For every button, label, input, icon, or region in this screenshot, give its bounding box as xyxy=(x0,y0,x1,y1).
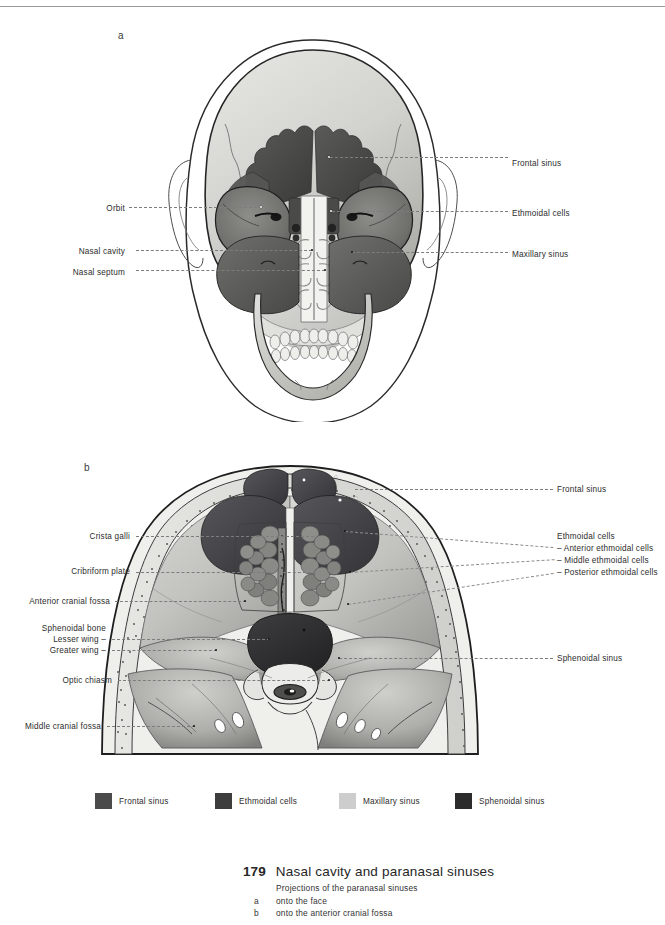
legend-swatch-sphenoidal-sinus xyxy=(455,793,472,809)
caption-key-a: a xyxy=(254,895,276,908)
figure-caption: 179 Nasal cavity and paranasal sinuses P… xyxy=(243,864,643,920)
label-a-ethmoidal-cells: Ethmoidal cells xyxy=(512,208,570,219)
leader-b-anterior-cranial-fossa xyxy=(115,601,246,602)
label-a-orbit: Orbit xyxy=(63,203,125,214)
leader-b-cribriform-plate xyxy=(136,572,316,573)
legend-label-frontal-sinus: Frontal sinus xyxy=(119,797,168,806)
label-b-anterior-cranial-fossa: Anterior cranial fossa xyxy=(0,596,110,607)
label-b-cribriform-plate: Cribriform plate xyxy=(10,566,130,577)
caption-subtitle: Projections of the paranasal sinuses xyxy=(276,882,643,895)
panel-letter-a: a xyxy=(118,30,124,41)
caption-text-a: onto the face xyxy=(276,895,327,908)
label-b-middle-cranial-fossa: Middle cranial fossa xyxy=(0,721,101,732)
caption-text-b: onto the anterior cranial fossa xyxy=(276,907,393,920)
caption-title-row: 179 Nasal cavity and paranasal sinuses xyxy=(243,864,643,879)
caption-key-b: b xyxy=(254,907,276,920)
label-b-sphenoidal-sinus: Sphenoidal sinus xyxy=(557,653,622,664)
figure-b-illustration xyxy=(92,462,488,758)
caption-item-b: b onto the anterior cranial fossa xyxy=(243,907,643,920)
label-b-sphenoidal-bone: Sphenoidal bone xyxy=(0,623,106,634)
leader-a-ethmoidal-cells xyxy=(332,211,508,212)
leader-b-greater-wing xyxy=(112,650,217,651)
leader-b-crista-galli xyxy=(136,536,314,537)
figure-a-illustration xyxy=(143,32,483,422)
label-b-optic-chiasm: Optic chiasm xyxy=(10,675,112,686)
label-a-maxillary-sinus: Maxillary sinus xyxy=(512,249,568,260)
legend-item-sphenoidal-sinus: Sphenoidal sinus xyxy=(455,790,545,812)
caption-title: Nasal cavity and paranasal sinuses xyxy=(276,864,494,879)
legend: Frontal sinus Ethmoidal cells Maxillary … xyxy=(0,790,665,814)
label-b-ethmoidal-cells: Ethmoidal cells xyxy=(557,531,615,542)
label-b-crista-galli: Crista galli xyxy=(10,531,130,542)
legend-item-frontal-sinus: Frontal sinus xyxy=(95,790,168,812)
label-b-lesser-wing: Lesser wing – xyxy=(0,634,106,645)
page-top-rule xyxy=(0,6,665,7)
figure-page: a xyxy=(0,0,665,925)
leader-b-middle-cranial-fossa xyxy=(107,726,195,727)
legend-item-ethmoidal-cells: Ethmoidal cells xyxy=(215,790,297,812)
label-b-greater-wing: Greater wing – xyxy=(0,645,106,656)
label-a-nasal-cavity: Nasal cavity xyxy=(43,246,125,257)
legend-label-sphenoidal-sinus: Sphenoidal sinus xyxy=(479,797,545,806)
leader-a-maxillary-sinus xyxy=(352,252,508,253)
leader-a-nasal-septum xyxy=(136,270,325,271)
label-b-frontal-sinus: Frontal sinus xyxy=(557,484,606,495)
leader-b-lesser-wing xyxy=(112,639,270,640)
caption-number: 179 xyxy=(243,864,266,879)
label-b-posterior-ethmoidal-cells: – Posterior ethmoidal cells xyxy=(557,567,658,578)
leader-b-optic-chiasm xyxy=(118,680,330,681)
label-b-anterior-ethmoidal-cells: – Anterior ethmoidal cells xyxy=(557,543,653,554)
legend-label-ethmoidal-cells: Ethmoidal cells xyxy=(239,797,297,806)
caption-item-a: a onto the face xyxy=(243,895,643,908)
legend-label-maxillary-sinus: Maxillary sinus xyxy=(363,797,420,806)
leader-a-orbit xyxy=(129,207,262,208)
legend-swatch-frontal-sinus xyxy=(95,793,112,809)
label-a-nasal-septum: Nasal septum xyxy=(43,267,125,278)
legend-item-maxillary-sinus: Maxillary sinus xyxy=(339,790,420,812)
legend-swatch-maxillary-sinus xyxy=(339,793,356,809)
leader-a-nasal-cavity xyxy=(136,250,312,251)
panel-letter-b: b xyxy=(84,462,90,473)
label-b-middle-ethmoidal-cells: – Middle ethmoidal cells xyxy=(557,555,649,566)
legend-swatch-ethmoidal-cells xyxy=(215,793,232,809)
leader-b-frontal-sinus xyxy=(355,489,553,490)
leader-b-sphenoidal-sinus xyxy=(339,658,553,659)
label-a-frontal-sinus: Frontal sinus xyxy=(512,158,561,169)
leader-a-frontal-sinus xyxy=(330,157,508,158)
